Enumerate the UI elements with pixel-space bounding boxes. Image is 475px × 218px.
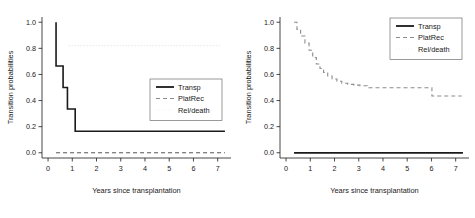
y-tick-label: 0.8	[26, 44, 36, 53]
y-tick-label: 1.0	[264, 18, 274, 27]
y-tick-label: 1.0	[26, 18, 36, 27]
x-axis-title: Years since transplantation	[330, 186, 418, 195]
legend-label-platrec: PlatRec	[178, 94, 204, 103]
legend-label-rel-death: Rel/death	[418, 45, 450, 54]
figure-panel-group: 0.00.20.40.60.81.001234567Years since tr…	[0, 0, 475, 218]
plot-right: 0.00.20.40.60.81.001234567Years since tr…	[238, 0, 475, 218]
x-tick-label: 1	[70, 164, 74, 173]
y-tick-label: 0.4	[26, 96, 36, 105]
x-tick-label: 0	[46, 164, 50, 173]
y-tick-label: 0.6	[264, 70, 274, 79]
panel-right: 0.00.20.40.60.81.001234567Years since tr…	[238, 0, 475, 218]
x-tick-label: 2	[95, 164, 99, 173]
legend-label-transp: Transp	[178, 83, 201, 92]
plot-left: 0.00.20.40.60.81.001234567Years since tr…	[0, 0, 238, 218]
legend-label-platrec: PlatRec	[418, 33, 444, 42]
y-tick-label: 0.6	[26, 70, 36, 79]
x-tick-label: 2	[332, 164, 336, 173]
y-axis-title: Transition probabilities	[244, 50, 253, 124]
x-tick-label: 3	[356, 164, 360, 173]
x-tick-label: 5	[167, 164, 171, 173]
y-tick-label: 0.2	[26, 122, 36, 131]
x-tick-label: 5	[405, 164, 409, 173]
x-tick-label: 7	[453, 164, 457, 173]
panel-left: 0.00.20.40.60.81.001234567Years since tr…	[0, 0, 238, 218]
x-tick-label: 1	[308, 164, 312, 173]
y-tick-label: 0.2	[264, 122, 274, 131]
x-tick-label: 7	[216, 164, 220, 173]
x-tick-label: 3	[119, 164, 123, 173]
x-tick-label: 0	[284, 164, 288, 173]
x-tick-label: 6	[429, 164, 433, 173]
y-tick-label: 0.0	[26, 148, 36, 157]
y-tick-label: 0.8	[264, 44, 274, 53]
legend: TranspPlatRecRel/death	[390, 18, 462, 60]
x-tick-label: 6	[191, 164, 195, 173]
x-tick-label: 4	[380, 164, 384, 173]
y-axis-title: Transition probabilities	[6, 50, 15, 124]
x-axis-title: Years since transplantation	[92, 186, 180, 195]
legend-label-transp: Transp	[418, 22, 441, 31]
legend-label-rel-death: Rel/death	[178, 106, 210, 115]
y-tick-label: 0.0	[264, 148, 274, 157]
y-tick-label: 0.4	[264, 96, 274, 105]
x-tick-label: 4	[143, 164, 147, 173]
legend: TranspPlatRecRel/death	[150, 79, 222, 121]
